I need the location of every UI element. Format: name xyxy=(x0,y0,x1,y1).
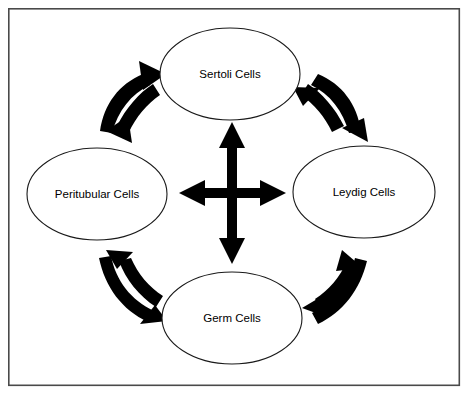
node-germ[interactable]: Germ Cells xyxy=(162,272,302,364)
node-germ-label: Germ Cells xyxy=(203,312,261,324)
node-leydig-label: Leydig Cells xyxy=(333,186,396,198)
node-leydig[interactable]: Leydig Cells xyxy=(293,146,435,238)
diagram-canvas: Sertoli Cells Peritubular Cells Leydig C… xyxy=(0,0,468,397)
node-sertoli[interactable]: Sertoli Cells xyxy=(160,28,300,120)
node-peritubular-label: Peritubular Cells xyxy=(55,188,140,200)
node-sertoli-label: Sertoli Cells xyxy=(199,68,261,80)
cell-interaction-diagram: Sertoli Cells Peritubular Cells Leydig C… xyxy=(0,0,468,397)
node-peritubular[interactable]: Peritubular Cells xyxy=(27,148,167,240)
